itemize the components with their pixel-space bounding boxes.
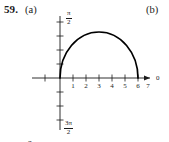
x-tick-label-7: 7 [144,82,152,90]
x-tick-label-5: 5 [121,82,129,90]
plot-area: π 0 π 2 3π 2 1 2 3 4 5 6 7 [28,6,160,138]
x-tick-label-6: 6 [134,82,142,90]
problem-number: 59. [4,3,18,15]
x-axis-arrowhead [144,75,150,80]
y-axis-top-label: π 2 [66,10,72,26]
x-tick-label-3: 3 [95,82,103,90]
y-axis-top-denominator: 2 [66,19,72,27]
x-axis-left-label: π [28,138,32,142]
semicircle-curve [60,32,138,78]
x-axis-right-label: 0 [156,74,160,82]
x-tick-label-2: 2 [82,82,90,90]
coordinate-plot-svg [28,6,160,138]
y-axis-bottom-denominator: 2 [64,129,73,137]
x-tick-label-1: 1 [69,82,77,90]
figure-container: 59. (a) (b) [0,0,169,142]
y-axis-bottom-label: 3π 2 [64,120,73,136]
x-tick-label-4: 4 [108,82,116,90]
